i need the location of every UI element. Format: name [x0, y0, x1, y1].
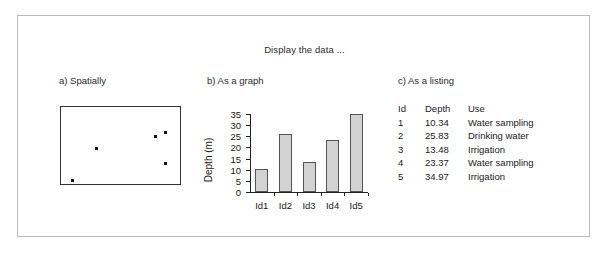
y-axis-tick-label: 0 [236, 187, 241, 198]
bar [326, 140, 339, 192]
x-axis-tick-label: Id2 [279, 200, 292, 211]
row-cell-depth: 10.34 [425, 116, 468, 130]
panel-c-heading: c) As a listing [398, 75, 454, 86]
y-axis-tick: 15 [246, 159, 250, 160]
row-cell-depth: 25.83 [425, 129, 468, 143]
y-axis-tick: 20 [246, 147, 250, 148]
spatial-map-box [60, 106, 181, 185]
row-cell-id: 2 [398, 129, 425, 143]
table-row: 313.48Irrigation [398, 143, 534, 157]
row-cell-use: Water sampling [468, 156, 534, 170]
x-axis-tick [274, 193, 275, 196]
x-axis-line [250, 192, 368, 193]
x-axis-tick-label: Id1 [255, 200, 268, 211]
y-axis-line [250, 114, 251, 192]
y-axis-tick-label: 20 [230, 142, 241, 153]
row-cell-id: 1 [398, 116, 425, 130]
figure-title: Display the data ... [18, 44, 591, 55]
bar-chart: Depth (m) 05101520253035Id1Id2Id3Id4Id5 [207, 100, 377, 220]
row-cell-use: Irrigation [468, 143, 534, 157]
bar [303, 162, 316, 192]
panel-a-heading: a) Spatially [59, 75, 106, 86]
column-header-use: Use [468, 102, 534, 116]
spatial-point [164, 162, 167, 165]
column-header-id: Id [398, 102, 425, 116]
row-cell-depth: 34.97 [425, 170, 468, 184]
x-axis-tick [321, 193, 322, 196]
x-axis-tick [297, 193, 298, 196]
spatial-point [71, 179, 74, 182]
table-row: 534.97Irrigation [398, 170, 534, 184]
x-axis-tick-label: Id3 [302, 200, 315, 211]
y-axis-tick: 35 [246, 114, 250, 115]
y-axis-label: Depth (m) [203, 122, 214, 198]
y-axis-tick-label: 10 [230, 164, 241, 175]
x-axis-tick-label: Id4 [326, 200, 339, 211]
spatial-point [164, 131, 167, 134]
y-axis-tick: 0 [246, 192, 250, 193]
row-cell-depth: 23.37 [425, 156, 468, 170]
spatial-point [95, 147, 98, 150]
x-axis-tick-label: Id5 [350, 200, 363, 211]
listing-table: Id Depth Use 110.34Water sampling225.83D… [398, 102, 534, 184]
chart-plot-area: 05101520253035Id1Id2Id3Id4Id5 [250, 114, 368, 192]
bar [279, 134, 292, 192]
x-axis-tick [344, 193, 345, 196]
y-axis-tick: 25 [246, 136, 250, 137]
y-axis-tick-label: 15 [230, 153, 241, 164]
bar [350, 114, 363, 192]
row-cell-depth: 13.48 [425, 143, 468, 157]
bar [255, 169, 268, 192]
row-cell-id: 3 [398, 143, 425, 157]
y-axis-tick: 5 [246, 181, 250, 182]
y-axis-tick-label: 25 [230, 131, 241, 142]
y-axis-tick-label: 5 [236, 175, 241, 186]
row-cell-id: 5 [398, 170, 425, 184]
y-axis-tick: 30 [246, 125, 250, 126]
row-cell-use: Water sampling [468, 116, 534, 130]
y-axis-tick-label: 35 [230, 109, 241, 120]
row-cell-id: 4 [398, 156, 425, 170]
row-cell-use: Drinking water [468, 129, 534, 143]
column-header-depth: Depth [425, 102, 468, 116]
table-header-row: Id Depth Use [398, 102, 534, 116]
table-row: 110.34Water sampling [398, 116, 534, 130]
spatial-point [154, 135, 157, 138]
figure-frame: Display the data ... a) Spatially b) As … [17, 15, 590, 237]
panel-b-heading: b) As a graph [207, 75, 264, 86]
y-axis-tick-label: 30 [230, 120, 241, 131]
table-row: 423.37Water sampling [398, 156, 534, 170]
x-axis-tick [368, 193, 369, 196]
row-cell-use: Irrigation [468, 170, 534, 184]
table-body: 110.34Water sampling225.83Drinking water… [398, 116, 534, 184]
table-row: 225.83Drinking water [398, 129, 534, 143]
y-axis-tick: 10 [246, 170, 250, 171]
